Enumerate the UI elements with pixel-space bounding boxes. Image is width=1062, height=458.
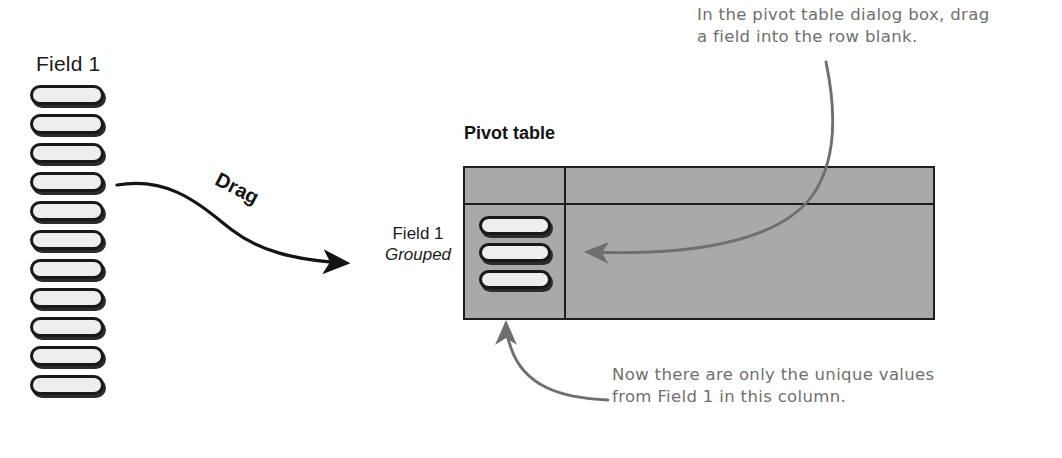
field-value-pill[interactable] (30, 143, 104, 163)
pivot-row-value-pill[interactable] (479, 243, 551, 262)
field-value-pill[interactable] (30, 114, 104, 134)
field-value-pill[interactable] (30, 172, 104, 192)
field-value-pill[interactable] (30, 230, 104, 250)
pivot-row-value-pill[interactable] (479, 270, 551, 289)
pivot-table-row-area (465, 207, 564, 318)
field-value-pill[interactable] (30, 201, 104, 221)
dropped-field-name: Field 1 (366, 224, 470, 245)
pivot-table-title: Pivot table (464, 123, 555, 144)
field-value-pill[interactable] (30, 288, 104, 308)
pivot-table-header-row (465, 168, 933, 205)
field-value-pill[interactable] (30, 259, 104, 279)
diagram-canvas: Field 1 Drag Field 1 Grouped Pivot table… (0, 0, 1062, 458)
field-value-pill[interactable] (30, 85, 104, 105)
annotation-top: In the pivot table dialog box, drag a fi… (697, 4, 1057, 48)
dropped-field-state: Grouped (366, 245, 470, 266)
pivot-table-column-divider (564, 168, 566, 318)
annotation-bottom: Now there are only the unique values fro… (612, 364, 982, 408)
dropped-field-label: Field 1 Grouped (366, 224, 470, 265)
pivot-row-value-pill[interactable] (479, 216, 551, 235)
source-field-label: Field 1 (36, 52, 140, 76)
field-value-pill[interactable] (30, 375, 104, 395)
drag-label: Drag (212, 168, 263, 209)
callout-arrow-bottom-icon (506, 324, 608, 400)
source-field-column: Field 1 (30, 52, 140, 404)
field-value-pill[interactable] (30, 317, 104, 337)
field-value-pill[interactable] (30, 346, 104, 366)
pivot-table (463, 166, 935, 320)
source-pill-stack (30, 85, 140, 404)
